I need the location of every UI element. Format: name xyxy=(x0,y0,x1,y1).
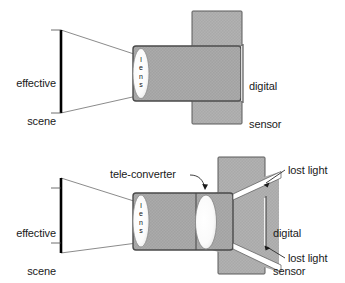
lens-letter-l: l xyxy=(136,56,146,64)
light-cone-scene-2 xyxy=(61,178,137,253)
lens-letter-n: n xyxy=(136,73,146,81)
teleconverter-element xyxy=(196,195,217,249)
effective-scene-label-2: effective scene xyxy=(0,202,56,283)
lost-light-label-top: lost light xyxy=(288,164,345,177)
lens-label-2: l e n s xyxy=(136,202,146,236)
effective-scene-line1: effective xyxy=(0,77,56,90)
digital-sensor-label-2: digital sensor xyxy=(273,202,345,283)
teleconverter-arrowhead xyxy=(202,184,208,190)
digital-sensor-label: digital sensor xyxy=(249,55,339,155)
digital-sensor-line2-2: sensor xyxy=(273,265,345,278)
diagram-without-teleconverter xyxy=(51,11,243,124)
lens-label: l e n s xyxy=(136,56,146,90)
optics-figure: effective scene l e n s digital sensor e… xyxy=(0,0,345,283)
lens-letter-l-2: l xyxy=(136,202,146,210)
digital-sensor-line1: digital xyxy=(249,80,339,93)
lens-letter-s-2: s xyxy=(136,227,146,235)
digital-sensor-line1-2: digital xyxy=(273,227,345,240)
effective-scene-label: effective scene xyxy=(0,52,56,152)
digital-sensor-line2: sensor xyxy=(249,118,339,131)
lens-letter-n-2: n xyxy=(136,219,146,227)
lens-letter-e: e xyxy=(136,64,146,72)
light-cone-scene xyxy=(61,30,137,113)
effective-scene-line2: scene xyxy=(0,115,56,128)
effective-scene-line2-2: scene xyxy=(0,265,56,278)
lens-letter-s: s xyxy=(136,81,146,89)
lens-letter-e-2: e xyxy=(136,210,146,218)
teleconverter-label: tele-converter xyxy=(110,168,200,181)
effective-scene-line1-2: effective xyxy=(0,227,56,240)
